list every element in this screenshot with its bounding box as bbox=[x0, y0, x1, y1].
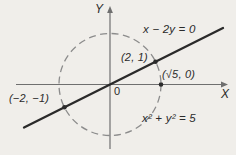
coordinate-plane-figure bbox=[0, 0, 236, 155]
point-2-1-label: (2, 1) bbox=[121, 51, 148, 64]
point-sqrt5-0-label: (√5, 0) bbox=[162, 68, 195, 81]
y-axis-label: Y bbox=[95, 3, 103, 16]
point-neg2-neg1-dot bbox=[62, 105, 67, 110]
y-axis-arrowhead bbox=[107, 6, 113, 13]
x-axis-label: X bbox=[221, 88, 229, 101]
point-2-1-dot bbox=[153, 60, 158, 65]
point-sqrt5-0-dot bbox=[159, 82, 164, 87]
math-figure: Y X x − 2y = 0 (2, 1) (√5, 0) 0 (−2, −1)… bbox=[0, 0, 236, 155]
circle-equation-label: x² + y² = 5 bbox=[142, 112, 196, 125]
point-neg2-neg1-label: (−2, −1) bbox=[9, 92, 49, 105]
line-equation-label: x − 2y = 0 bbox=[143, 23, 196, 36]
origin-label: 0 bbox=[114, 85, 120, 98]
